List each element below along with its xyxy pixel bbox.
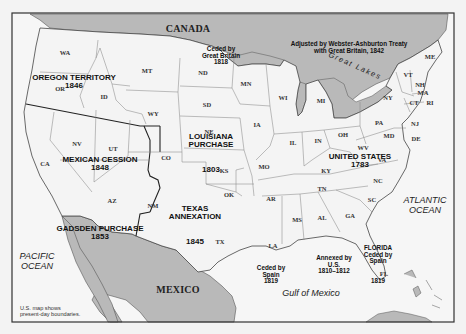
state-label: ND [198,70,207,77]
state-label: MN [241,81,252,88]
label-gulf-of-mexico: Gulf of Mexico [282,289,340,299]
state-label: UT [108,146,117,153]
annotation-ceded-spain-1819: Ceded by Spain 1819 [257,265,285,285]
state-label: WV [357,145,368,152]
annotation-ceded-great-britain-1818: Ceded by Great Britain 1818 [202,46,240,66]
state-label: LA [268,243,277,250]
state-label: CT [409,100,418,107]
region-year: 1819 [364,279,392,286]
state-label: AR [266,196,275,203]
state-label: AL [317,215,326,222]
state-label: RI [426,100,433,107]
state-label: OR [55,86,65,93]
state-label: ME [425,54,435,61]
state-label: FL [380,271,388,278]
state-label: AZ [107,198,116,205]
region-texas-annexation: TEXAS ANNEXATION 1845 [169,188,221,255]
region-year: 1848 [62,164,137,172]
state-label: WA [60,50,70,57]
state-label: VA [378,157,387,164]
state-label: SD [203,102,211,109]
region-oregon-territory: OREGON TERRITORY 1846 [32,74,116,91]
state-label: SC [368,197,376,204]
state-label: MA [418,90,429,97]
region-mexican-cession: MEXICAN CESSION 1848 [62,156,137,173]
state-label: OH [338,132,348,139]
state-label: MT [142,68,152,75]
annotation-annexed-us-1810-1812: Annexed by U.S. 1810–1812 [316,255,352,275]
state-label: KY [321,168,331,175]
state-label: CA [40,161,49,168]
state-label: NH [415,82,425,89]
state-label: NV [72,141,81,148]
footnote-present-day-boundaries: U.S. map shows present-day boundaries. [20,305,80,318]
region-year: 1846 [32,82,116,90]
state-label: GA [345,213,355,220]
state-label: MI [317,98,326,105]
state-label: WI [278,95,287,102]
state-label: MS [292,217,302,224]
state-label: NJ [411,121,419,128]
state-label: KS [220,168,229,175]
annotation-webster-ashburton-treaty: Adjusted by Webster-Ashburton Treaty wit… [291,41,408,54]
region-gadsden-purchase: GADSDEN PURCHASE 1853 [56,225,143,242]
state-label: TX [215,239,224,246]
region-name: TEXAS ANNEXATION [169,205,221,222]
state-label: NM [148,203,159,210]
region-name: LOUISIANA PURCHASE [189,133,234,150]
state-label: MD [384,133,395,140]
label-pacific-ocean: PACIFIC OCEAN [20,252,55,272]
label-mexico: MEXICO [156,285,199,295]
state-label: NY [383,95,392,102]
state-label: VT [403,72,412,79]
state-label: ID [100,94,107,101]
state-label: IN [314,138,321,145]
state-label: TN [317,186,326,193]
state-label: MO [258,164,269,171]
label-atlantic-ocean: ATLANTIC OCEAN [404,196,447,216]
state-label: PA [375,120,383,127]
state-label: NE [204,129,213,136]
state-label: CO [161,155,171,162]
region-name: FLORIDA Ceded by Spain [364,245,392,265]
state-label: WY [147,111,158,118]
region-year: 1845 [169,239,221,247]
state-label: OK [224,192,234,199]
state-label: IA [253,122,260,129]
state-label: IL [290,140,297,147]
label-canada: CANADA [166,24,211,34]
state-label: NC [373,178,382,185]
region-year: 1853 [56,233,143,241]
state-label: DE [411,136,420,143]
region-florida: FLORIDA Ceded by Spain 1819 [364,232,392,291]
